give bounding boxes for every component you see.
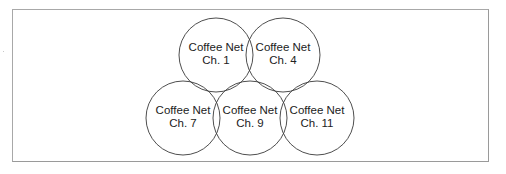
cell-name-ch9: Coffee Net	[223, 104, 279, 116]
cell-ch11: Coffee Net Ch. 11	[280, 81, 354, 155]
cell-name-ch1: Coffee Net	[189, 41, 245, 53]
cell-name-ch11: Coffee Net	[290, 104, 346, 116]
cell-ch4: Coffee Net Ch. 4	[246, 18, 320, 92]
cell-channel-ch9: Ch. 9	[236, 117, 264, 129]
cell-ch7: Coffee Net Ch. 7	[146, 81, 220, 155]
cell-channel-ch4: Ch. 4	[269, 54, 297, 66]
cell-channel-ch7: Ch. 7	[169, 117, 197, 129]
cell-ch1: Coffee Net Ch. 1	[179, 18, 253, 92]
cell-name-ch4: Coffee Net	[256, 41, 312, 53]
cell-name-ch7: Coffee Net	[156, 104, 212, 116]
cell-ch9: Coffee Net Ch. 9	[213, 81, 287, 155]
wifi-channel-overlap-diagram: Coffee Net Ch. 1 Coffee Net Ch. 4 Coffee…	[0, 0, 506, 174]
cell-channel-ch11: Ch. 11	[300, 117, 333, 129]
cell-channel-ch1: Ch. 1	[202, 54, 230, 66]
